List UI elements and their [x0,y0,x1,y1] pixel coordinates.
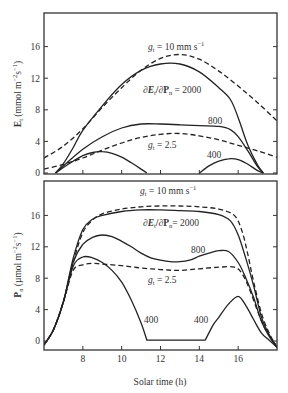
top-annotation-g10: gt = 10 mm s−1 [148,40,204,53]
top-annotation-ratio: ∂Et/∂Pn = 2000 [143,85,202,96]
series-line-2 [44,235,277,347]
bottom-y-axis-label: Pn (µmol m−2s−1) [11,232,24,297]
y-tick-label: 4 [35,305,40,315]
y-tick-label: 16 [31,42,41,52]
y-tick-label: 8 [35,105,40,115]
top-annotation-800: 800 [208,116,223,126]
y-tick-label: 0 [35,336,40,346]
y-tick-label: 12 [31,74,41,84]
bottom-annotation-800: 800 [191,245,206,255]
x-tick-label: 10 [117,354,127,364]
x-tick-label: 16 [233,354,243,364]
top-panel-curves [44,54,277,173]
top-annotation-g25: gt = 2.5 [148,140,177,151]
y-tick-label: 0 [35,168,40,178]
top-y-axis-label: Et (mmol m−2s−1) [11,61,24,127]
bottom-annotation-ratio: ∂Et/∂Pn= 2000 [143,218,199,229]
top-panel: 0481216 gt = 10 mm s−1 ∂Et/∂Pn = 2000 80… [11,13,277,178]
y-tick-label: 16 [31,211,41,221]
series-line-3 [44,133,277,169]
chart-figure: 0481216 gt = 10 mm s−1 ∂Et/∂Pn = 2000 80… [0,0,288,393]
x-tick-label: 12 [156,354,166,364]
top-annotation-400: 400 [207,150,222,160]
x-tick-label: 8 [80,354,85,364]
bottom-annotation-g10: gt = 10 mm s−1 [140,184,196,197]
bottom-annotation-400-right: 400 [194,315,209,325]
x-tick-label: 14 [195,354,205,364]
y-tick-label: 12 [31,242,41,252]
y-tick-label: 8 [35,274,40,284]
bottom-annotation-400-left: 400 [144,315,159,325]
y-tick-label: 4 [35,137,40,147]
bottom-annotation-g25: gt = 2.5 [148,275,177,286]
x-axis-label: Solar time (h) [134,377,187,388]
bottom-panel: 0481216810121416 gt = 10 mm s−1 ∂Et/∂Pn=… [11,181,277,388]
